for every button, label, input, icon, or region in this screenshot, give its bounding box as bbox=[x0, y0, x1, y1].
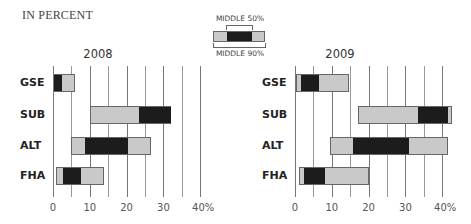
legend-middle50-label: MIDDLE 50% bbox=[207, 14, 273, 23]
category-label: GSE bbox=[262, 76, 286, 89]
legend-bar bbox=[213, 31, 265, 42]
legend-middle90-label: MIDDLE 90% bbox=[207, 49, 273, 58]
legend-bar-dark bbox=[227, 32, 252, 41]
x-tick-label: 10 bbox=[325, 202, 338, 213]
middle50-segment bbox=[139, 107, 171, 123]
range-bar-alt bbox=[71, 137, 151, 155]
gridline bbox=[163, 66, 164, 197]
chart-title: 2009 bbox=[310, 47, 370, 61]
middle50-segment bbox=[418, 107, 448, 123]
gridline bbox=[405, 66, 406, 197]
category-label: FHA bbox=[20, 169, 45, 182]
category-label: ALT bbox=[20, 139, 41, 152]
legend-middle50-brace bbox=[226, 25, 253, 30]
middle50-segment bbox=[304, 168, 325, 184]
gridline bbox=[442, 66, 443, 197]
chart-title: 2008 bbox=[68, 47, 128, 61]
range-bar-alt bbox=[330, 137, 448, 155]
x-tick-label: 40% bbox=[434, 202, 456, 213]
middle50-segment bbox=[63, 168, 81, 184]
range-bar-gse bbox=[54, 74, 75, 92]
gridline bbox=[182, 66, 183, 197]
range-bar-fha bbox=[299, 167, 370, 185]
unit-label: IN PERCENT bbox=[22, 8, 93, 23]
gridline bbox=[200, 66, 201, 197]
middle50-segment bbox=[54, 75, 62, 91]
category-label: ALT bbox=[262, 139, 283, 152]
range-bar-fha bbox=[56, 167, 104, 185]
middle50-segment bbox=[85, 138, 129, 154]
gridline bbox=[424, 66, 425, 197]
x-tick-label: 20 bbox=[362, 202, 375, 213]
gridline bbox=[145, 66, 146, 197]
x-tick-label: 10 bbox=[83, 202, 96, 213]
gridline bbox=[127, 66, 128, 197]
category-label: FHA bbox=[262, 169, 287, 182]
range-bar-sub bbox=[90, 106, 171, 124]
range-bar-sub bbox=[358, 106, 453, 124]
x-tick-label: 30 bbox=[399, 202, 412, 213]
gridline bbox=[108, 66, 109, 197]
gridline bbox=[387, 66, 388, 197]
middle50-segment bbox=[301, 75, 319, 91]
middle50-segment bbox=[353, 138, 409, 154]
category-label: GSE bbox=[20, 76, 44, 89]
x-tick-label: 0 bbox=[50, 202, 56, 213]
legend: MIDDLE 50% MIDDLE 90% bbox=[207, 14, 273, 62]
category-label: SUB bbox=[262, 108, 287, 121]
x-tick-label: 0 bbox=[292, 202, 298, 213]
legend-middle90-brace bbox=[213, 43, 266, 48]
x-tick-label: 40% bbox=[192, 202, 214, 213]
range-bar-gse bbox=[296, 74, 349, 92]
x-tick-label: 30 bbox=[157, 202, 170, 213]
category-label: SUB bbox=[20, 108, 45, 121]
x-tick-label: 20 bbox=[120, 202, 133, 213]
